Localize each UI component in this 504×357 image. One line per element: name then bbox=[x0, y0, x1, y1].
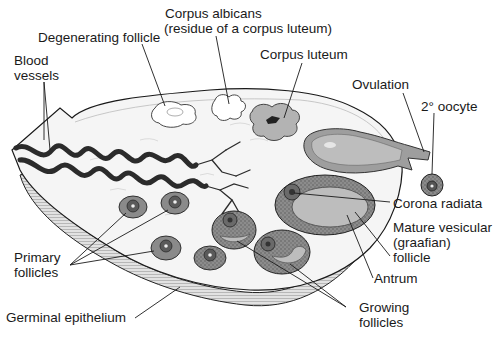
label-secondary-oocyte: 2° oocyte bbox=[421, 99, 477, 114]
label-corpus-albicans: Corpus albicans bbox=[165, 6, 262, 21]
label-mature-follicle-3: follicle bbox=[393, 250, 431, 265]
label-antrum: Antrum bbox=[374, 271, 418, 286]
label-growing-follicles: Growing bbox=[359, 300, 409, 315]
ovary-illustration bbox=[0, 0, 504, 357]
growing-follicle bbox=[212, 211, 256, 249]
antrum-region bbox=[292, 187, 368, 227]
label-germinal-epithelium: Germinal epithelium bbox=[6, 310, 126, 325]
label-growing-follicles-2: follicles bbox=[359, 315, 403, 330]
growing-follicle bbox=[254, 230, 310, 274]
label-corona-radiata: Corona radiata bbox=[393, 196, 482, 211]
corpus-albicans bbox=[212, 95, 246, 121]
label-blood-vessels-2: vessels bbox=[14, 68, 59, 83]
corpus-luteum bbox=[250, 103, 299, 140]
label-corpus-luteum: Corpus luteum bbox=[260, 47, 348, 62]
ovary-diagram: Corpus albicans (residue of a corpus lut… bbox=[0, 0, 504, 357]
secondary-oocyte bbox=[421, 174, 443, 196]
label-primary-follicles: Primary bbox=[14, 250, 61, 265]
label-blood-vessels: Blood bbox=[14, 53, 49, 68]
label-primary-follicles-2: follicles bbox=[14, 265, 58, 280]
label-mature-follicle-2: (graafian) bbox=[393, 235, 451, 250]
mature-graafian-follicle bbox=[275, 175, 375, 235]
label-degenerating-follicle: Degenerating follicle bbox=[38, 30, 160, 45]
label-mature-follicle: Mature vesicular bbox=[393, 220, 492, 235]
label-ovulation: Ovulation bbox=[352, 77, 409, 92]
ruptured-follicle bbox=[304, 129, 430, 173]
label-corpus-albicans-note: (residue of a corpus luteum) bbox=[164, 21, 332, 36]
